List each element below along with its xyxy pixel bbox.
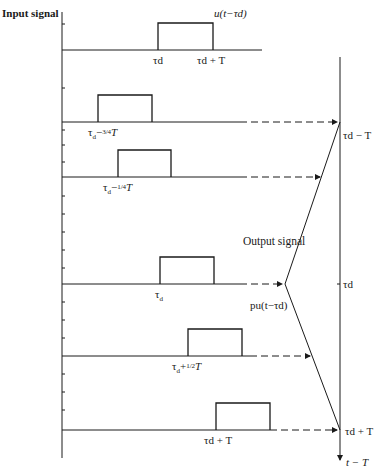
output-signal-curve bbox=[285, 122, 340, 430]
input-pulse bbox=[158, 23, 213, 50]
pulse-row-2 bbox=[98, 95, 152, 122]
time-axis-label: t − T bbox=[346, 457, 368, 468]
row-1-end-label: τd + T bbox=[197, 55, 225, 66]
right-label-bottom: τd + T bbox=[345, 426, 373, 437]
input-signal-title: Input signal bbox=[2, 8, 59, 19]
row-1-start-label: τd bbox=[153, 55, 163, 66]
diagram-canvas bbox=[0, 0, 385, 474]
output-signal-title: Output signal bbox=[243, 236, 305, 248]
pulse-row-4 bbox=[160, 257, 214, 284]
output-signal-label: pu(t−τd) bbox=[250, 300, 288, 311]
row-2-label: τd−3/4T bbox=[88, 127, 117, 141]
row-6-label: τd + T bbox=[204, 435, 232, 446]
pulse-row-5 bbox=[188, 329, 242, 356]
row-5-label: τd+1/2T bbox=[172, 361, 201, 375]
pulse-row-6 bbox=[216, 403, 270, 430]
row-3-label: τd−1/4T bbox=[103, 182, 132, 196]
right-label-middle: τd bbox=[343, 279, 353, 290]
row-4-label: τd bbox=[155, 289, 163, 303]
input-pulse-label: u(t−τd) bbox=[214, 8, 247, 19]
right-label-top: τd − T bbox=[343, 130, 371, 141]
pulse-row-3 bbox=[118, 150, 171, 177]
